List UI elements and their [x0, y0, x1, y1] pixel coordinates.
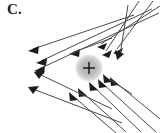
- arrowhead-icon: [28, 46, 39, 54]
- field-lines-lower-right: [69, 77, 160, 133]
- field-line: [102, 83, 156, 132]
- field-line: [120, 5, 128, 55]
- arrowhead-icon: [34, 71, 45, 79]
- point-charge: [75, 54, 103, 82]
- arrowhead-icon: [97, 43, 107, 50]
- field-line: [39, 74, 112, 109]
- field-line-figure: C.: [0, 0, 160, 133]
- arrowhead-icon: [69, 92, 78, 101]
- arrowhead-icon: [102, 50, 112, 58]
- arrowhead-icon: [36, 58, 47, 66]
- field-line: [33, 89, 122, 123]
- arrowhead-icon: [28, 86, 39, 94]
- field-line-canvas: [0, 0, 160, 133]
- arrowhead-icon: [78, 88, 87, 97]
- arrowhead-icon: [89, 82, 98, 91]
- field-line: [41, 9, 152, 61]
